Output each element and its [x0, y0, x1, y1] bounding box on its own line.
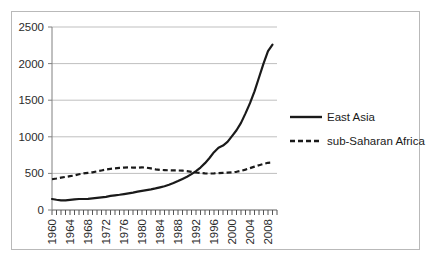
legend-label: East Asia [327, 111, 376, 123]
x-axis-tick-labels: 1960196419681972197619801984198819921996… [46, 218, 274, 244]
x-tick-label: 1972 [100, 219, 112, 245]
x-tick-label: 1980 [136, 219, 148, 245]
y-tick-label: 500 [25, 167, 44, 179]
x-tick-label: 1976 [118, 219, 130, 245]
series-east-asia [52, 45, 273, 201]
x-tick-label: 1964 [64, 218, 76, 244]
x-tick-label: 1988 [172, 219, 184, 245]
y-tick-label: 2000 [18, 58, 44, 70]
x-axis-minor-ticks [52, 210, 277, 215]
y-axis-tick-marks [48, 27, 52, 210]
y-tick-label: 1000 [18, 131, 44, 143]
x-tick-label: 1968 [82, 219, 94, 245]
series-line-dashed [52, 162, 273, 179]
x-tick-label: 1992 [190, 219, 202, 245]
x-tick-label: 1960 [46, 219, 58, 245]
x-tick-label: 1996 [208, 219, 220, 245]
x-tick-label: 2000 [226, 219, 238, 245]
series-sub-saharan-africa [52, 162, 273, 179]
series-line-solid [52, 45, 273, 201]
legend-label: sub-Saharan Africa [327, 135, 425, 147]
x-tick-label: 2004 [244, 218, 256, 244]
y-tick-label: 2500 [18, 21, 44, 33]
x-tick-label: 1984 [154, 218, 166, 244]
y-tick-label: 0 [38, 204, 44, 216]
chart-figure: 05001000150020002500 1960196419681972197… [0, 0, 433, 265]
line-chart: 05001000150020002500 1960196419681972197… [0, 0, 433, 265]
y-axis-tick-labels: 05001000150020002500 [18, 21, 44, 216]
x-tick-label: 2008 [262, 219, 274, 245]
chart-legend: East Asiasub-Saharan Africa [290, 111, 425, 147]
y-tick-label: 1500 [18, 94, 44, 106]
